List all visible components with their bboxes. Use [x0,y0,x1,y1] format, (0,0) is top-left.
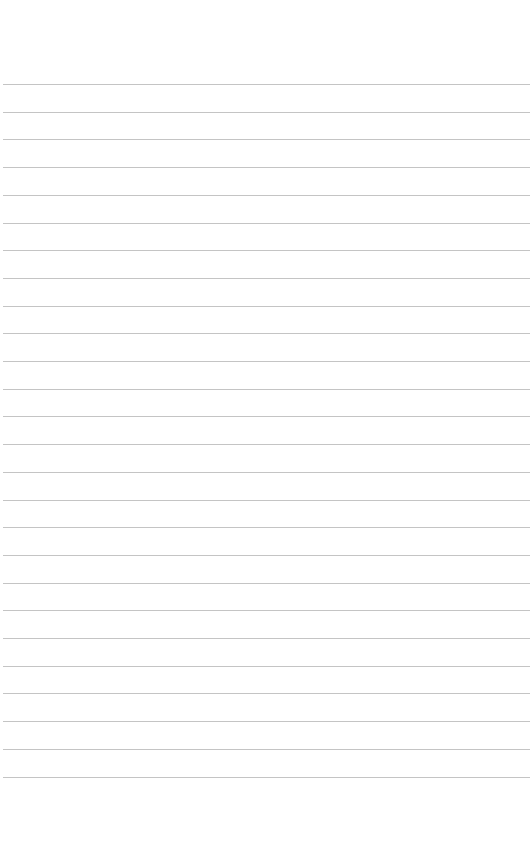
ruled-line [3,139,530,140]
ruled-line [3,112,530,113]
ruled-line [3,361,530,362]
ruled-line [3,250,530,251]
ruled-line [3,610,530,611]
ruled-line [3,721,530,722]
ruled-line [3,389,530,390]
ruled-line [3,583,530,584]
ruled-line [3,416,530,417]
ruled-line [3,167,530,168]
ruled-line [3,306,530,307]
ruled-line [3,84,530,85]
ruled-line [3,223,530,224]
ruled-line [3,195,530,196]
ruled-line [3,500,530,501]
ruled-line [3,777,530,778]
ruled-line [3,527,530,528]
ruled-line [3,472,530,473]
ruled-line [3,444,530,445]
ruled-line [3,278,530,279]
ruled-line [3,333,530,334]
ruled-line [3,693,530,694]
ruled-line [3,555,530,556]
lined-paper-page [0,0,532,862]
ruled-line [3,749,530,750]
ruled-line [3,666,530,667]
ruled-line [3,638,530,639]
